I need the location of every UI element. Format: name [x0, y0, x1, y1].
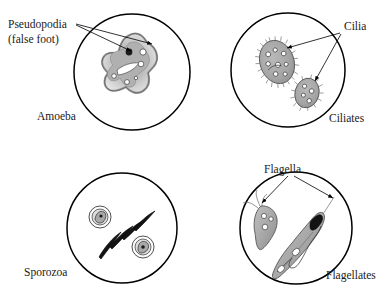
sporozoa-field-circle	[67, 173, 177, 283]
amoeba-name-label: Amoeba	[37, 110, 76, 122]
amoeba-vacuole-4	[125, 80, 130, 85]
cyst-upper-nucleolus	[99, 214, 102, 217]
panel-sporozoa: Sporozoa	[24, 173, 177, 283]
sporozoa-cyst-upper	[89, 206, 111, 228]
flagellate-pear-nucleus	[262, 224, 268, 230]
flagellate-pear-vacuole-2	[269, 217, 273, 221]
amoeba-callout-line1: Pseudopodia	[8, 18, 67, 31]
amoeba-vacuole-2	[138, 61, 144, 67]
panel-amoeba: Pseudopodia (false foot) Amoeba	[8, 14, 190, 130]
flagellates-name-label: Flagellates	[326, 269, 376, 282]
sporozoa-cyst-lower	[132, 236, 154, 258]
protozoa-diagram-svg: Pseudopodia (false foot) Amoeba	[0, 0, 392, 301]
cyst-lower-nucleolus	[141, 245, 145, 249]
flagellate-pear-vacuole-1	[261, 213, 266, 218]
sporozoa-name-label: Sporozoa	[24, 266, 67, 279]
ciliates-callout-line1: Cilia	[344, 20, 366, 32]
panel-ciliates: Cilia Ciliates	[231, 13, 366, 127]
amoeba-callout-line2: (false foot)	[8, 33, 59, 46]
panel-flagellates: Flagella Flagellates	[240, 163, 376, 284]
ciliates-name-label: Ciliates	[329, 112, 365, 124]
amoeba-vacuole-1	[140, 49, 146, 55]
protozoa-figure: Pseudopodia (false foot) Amoeba	[0, 0, 392, 301]
amoeba-vacuole-5	[134, 76, 137, 79]
flagellates-callout-line1: Flagella	[264, 163, 301, 176]
amoeba-vacuole-3	[112, 74, 117, 79]
